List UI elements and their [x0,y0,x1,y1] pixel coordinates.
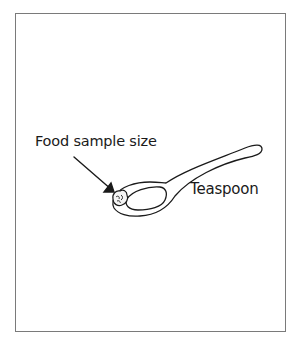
food-sample-size-label: Food sample size [35,133,157,149]
teaspoon-illustration [0,0,299,344]
food-sample-icon [113,190,128,205]
teaspoon-label: Teaspoon [190,180,259,198]
arrow-icon [74,157,114,192]
